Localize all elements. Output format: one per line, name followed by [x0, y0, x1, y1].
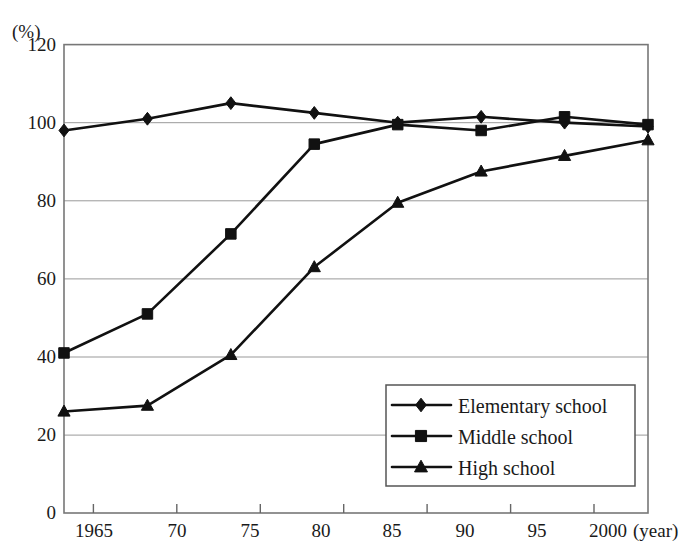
data-point-square-70 — [142, 309, 152, 319]
data-point-square-75 — [226, 229, 236, 239]
plot-area — [0, 0, 697, 560]
data-point-diamond-75 — [226, 97, 236, 110]
data-point-square-80 — [309, 139, 319, 149]
data-series-layer — [58, 97, 654, 416]
data-point-square-2000 — [643, 119, 653, 129]
legend-label-middle-school: Middle school — [458, 427, 573, 447]
data-point-diamond-80 — [309, 107, 319, 120]
data-point-square-1965 — [59, 348, 69, 358]
legend-label-high-school: High school — [458, 458, 555, 478]
legend-label-elementary-school: Elementary school — [458, 396, 607, 416]
data-point-diamond-90 — [476, 110, 486, 123]
data-point-diamond-70 — [142, 112, 152, 125]
x-tick-marks — [93, 504, 594, 513]
data-point-square-85 — [392, 119, 402, 129]
legend-marker-square — [415, 430, 426, 441]
data-point-diamond-1965 — [59, 124, 69, 137]
data-point-square-95 — [559, 112, 569, 122]
series-high-school — [58, 134, 654, 416]
chart-figure: (%) 120 100 80 60 40 20 0 1965 70 75 80 … — [0, 0, 697, 560]
data-point-triangle-2000 — [642, 134, 654, 145]
data-point-square-90 — [476, 125, 486, 135]
series-line-2 — [64, 140, 648, 411]
